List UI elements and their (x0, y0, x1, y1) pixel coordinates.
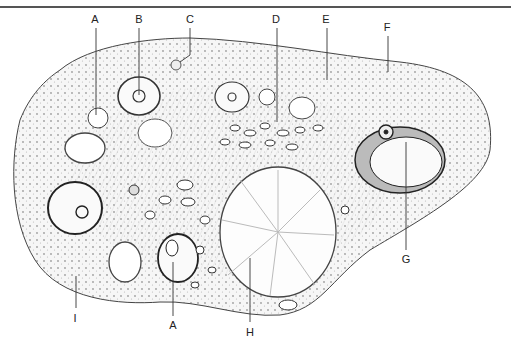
label-b: B (135, 14, 142, 25)
corpus-luteum (220, 167, 336, 297)
label-i: I (73, 313, 76, 324)
label-a-bottom: A (169, 320, 176, 331)
label-a-top: A (91, 14, 98, 25)
label-e: E (322, 14, 329, 25)
label-f: F (384, 22, 391, 33)
label-g: G (402, 254, 411, 265)
label-h: H (246, 327, 254, 338)
follicle-top-center (215, 82, 249, 112)
follicle-bottom-a (158, 234, 198, 282)
ovary-illustration (0, 0, 511, 347)
secondary-follicle-left (48, 182, 102, 234)
label-c: C (186, 14, 194, 25)
small-follicle-c (171, 60, 181, 70)
label-d: D (272, 14, 280, 25)
